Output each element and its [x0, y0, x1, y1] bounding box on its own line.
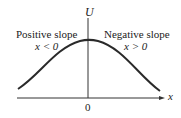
y-axis-label: U	[85, 6, 94, 18]
right-region-title: Negative slope	[104, 29, 170, 40]
x-axis-label: x	[168, 91, 173, 102]
left-region-condition: x < 0	[35, 41, 58, 52]
x-axis-arrow-icon	[159, 96, 165, 100]
left-region-title: Positive slope	[16, 29, 77, 40]
right-region-condition: x > 0	[124, 41, 147, 52]
origin-label: 0	[85, 102, 91, 113]
potential-energy-diagram: U Positive slope x < 0 Negative slope x …	[0, 0, 181, 118]
